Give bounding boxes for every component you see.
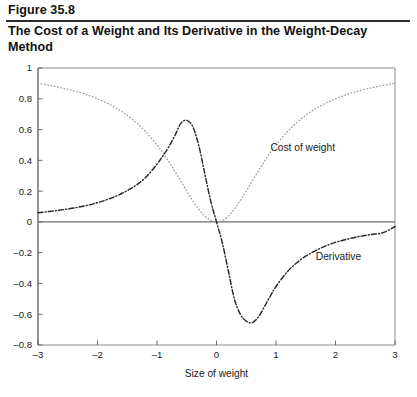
figure-title: The Cost of a Weight and Its Derivative …	[8, 24, 408, 55]
series-annotations: Cost of weightDerivative	[270, 142, 361, 261]
series-line-cost-of-weight	[38, 83, 395, 222]
y-tick-label: –0.6	[13, 309, 32, 320]
y-tick-label: –0.8	[13, 339, 32, 350]
series-label: Cost of weight	[270, 142, 335, 153]
x-tick-label: 1	[273, 349, 278, 360]
x-axis-title: Size of weight	[185, 368, 249, 379]
y-tick-label: 0	[27, 216, 32, 227]
plot-frame	[38, 68, 395, 345]
x-axis-label: Size of weight	[185, 368, 249, 379]
header-divider	[6, 20, 410, 22]
y-tick-label: –0.4	[13, 278, 32, 289]
y-tick-label: 0.6	[19, 124, 32, 135]
y-tick-label: –0.2	[13, 247, 32, 258]
x-tick-label: –3	[33, 349, 44, 360]
chart-container: –3–2–10123 10.80.60.40.20–0.2–0.4–0.6–0.…	[0, 60, 417, 397]
series-label: Derivative	[316, 251, 362, 262]
x-tick-label: 0	[214, 349, 219, 360]
x-axis-ticks: –3–2–10123	[33, 341, 398, 361]
x-tick-label: 3	[392, 349, 397, 360]
y-tick-label: 0.8	[19, 93, 32, 104]
data-series	[38, 83, 395, 323]
chart-svg: –3–2–10123 10.80.60.40.20–0.2–0.4–0.6–0.…	[0, 60, 417, 397]
x-tick-label: –1	[152, 349, 163, 360]
figure-page: Figure 35.8 The Cost of a Weight and Its…	[0, 0, 417, 397]
x-tick-label: –2	[92, 349, 103, 360]
y-tick-label: 1	[27, 62, 32, 73]
x-tick-label: 2	[333, 349, 338, 360]
y-tick-label: 0.2	[19, 186, 32, 197]
figure-number: Figure 35.8	[8, 3, 75, 17]
y-tick-label: 0.4	[19, 155, 33, 166]
